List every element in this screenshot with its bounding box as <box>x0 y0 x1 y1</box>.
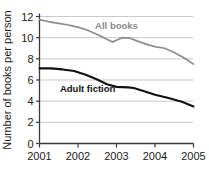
series-inline-label: Adult fiction <box>60 83 116 94</box>
x-tick-label: 2004 <box>143 150 167 162</box>
x-tick-label: 2005 <box>181 150 205 162</box>
y-tick-label: 4 <box>27 95 33 107</box>
x-tick-label: 2002 <box>66 150 90 162</box>
y-tick-label: 12 <box>21 11 33 23</box>
x-tick-labels: 20012002200320042005 <box>27 150 205 162</box>
y-tick-label: 0 <box>27 138 33 150</box>
x-tick-label: 2001 <box>27 150 51 162</box>
y-tick-label: 8 <box>27 53 33 65</box>
series-inline-label: All books <box>95 20 138 31</box>
y-axis-title: Number of books per person <box>1 10 13 149</box>
y-tick-labels: 024681012 <box>21 11 33 150</box>
y-tick-label: 2 <box>27 116 33 128</box>
chart-container: 024681012 20012002200320042005 All books… <box>0 0 209 174</box>
series-inline-labels: All booksAdult fiction <box>60 20 138 95</box>
x-tick-label: 2003 <box>104 150 128 162</box>
y-tick-label: 6 <box>27 74 33 86</box>
y-tick-label: 10 <box>21 32 33 44</box>
line-chart: 024681012 20012002200320042005 All books… <box>0 0 209 174</box>
